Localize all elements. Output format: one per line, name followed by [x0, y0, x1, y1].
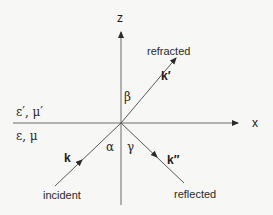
- x-axis-label: x: [252, 116, 258, 130]
- angle-gamma: γ: [127, 140, 134, 154]
- angle-beta: β: [124, 90, 131, 104]
- incident-vector-label: k: [64, 151, 71, 165]
- reflected-label: reflected: [174, 188, 216, 200]
- interface-diagram: x z ε′, μ′ ε, μ k incident α k′ refracte…: [0, 0, 273, 215]
- refracted-vector-label: k′: [161, 69, 171, 83]
- incident-label: incident: [43, 189, 81, 201]
- refracted-label: refracted: [147, 45, 190, 57]
- angle-alpha: α: [106, 140, 114, 154]
- lower-medium-label: ε, μ: [16, 129, 38, 143]
- upper-medium-label: ε′, μ′: [16, 105, 43, 119]
- z-axis-label: z: [117, 11, 123, 25]
- reflected-vector-label: k″: [167, 153, 180, 167]
